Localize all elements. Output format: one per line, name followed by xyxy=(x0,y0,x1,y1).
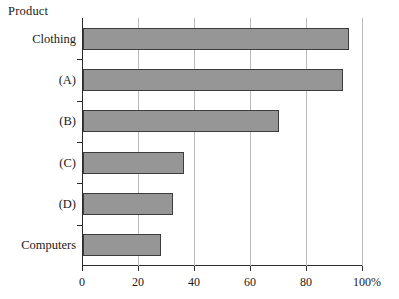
y-axis-category-label: (C) xyxy=(0,155,76,170)
y-axis-tick xyxy=(77,183,82,184)
x-axis-tick-label: 20 xyxy=(132,275,144,290)
x-axis-tick xyxy=(82,266,83,271)
bar xyxy=(83,28,349,50)
bar-chart: Product 020406080100 % Clothing(A)(B)(C)… xyxy=(0,0,399,299)
y-axis-category-label: (D) xyxy=(0,197,76,212)
bar xyxy=(83,234,161,256)
bar xyxy=(83,152,184,174)
gridline xyxy=(138,18,139,266)
y-axis-category-label: (A) xyxy=(0,73,76,88)
bar xyxy=(83,193,173,215)
gridline xyxy=(362,18,363,266)
y-axis-title: Product xyxy=(8,4,48,19)
x-axis-tick-label: 80 xyxy=(300,275,312,290)
x-axis-tick xyxy=(306,266,307,271)
bar xyxy=(83,69,343,91)
y-axis-line xyxy=(82,18,83,266)
x-axis-tick-label: 60 xyxy=(244,275,256,290)
y-axis-category-label: Computers xyxy=(0,238,76,253)
bar xyxy=(83,110,279,132)
gridline xyxy=(250,18,251,266)
x-axis-line xyxy=(82,265,362,266)
y-axis-category-label: (B) xyxy=(0,114,76,129)
plot-area: 020406080100 % xyxy=(82,18,362,266)
x-axis-tick xyxy=(250,266,251,271)
gridline xyxy=(306,18,307,266)
y-axis-tick xyxy=(77,59,82,60)
x-axis-tick-label: 0 xyxy=(79,275,85,290)
x-axis-unit-label: % xyxy=(371,275,381,290)
x-axis-tick xyxy=(362,266,363,271)
y-axis-category-label: Clothing xyxy=(0,31,76,46)
y-axis-tick xyxy=(77,142,82,143)
x-axis-tick xyxy=(194,266,195,271)
x-axis-tick-label: 40 xyxy=(188,275,200,290)
x-axis-tick-label: 100 xyxy=(353,275,371,290)
gridline xyxy=(194,18,195,266)
x-axis-tick xyxy=(138,266,139,271)
y-axis-tick xyxy=(77,101,82,102)
y-axis-tick xyxy=(77,225,82,226)
